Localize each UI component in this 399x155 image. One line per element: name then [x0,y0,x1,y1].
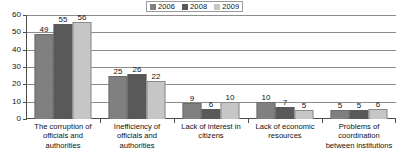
bar-2006[interactable]: 49 [35,34,54,119]
bar-value: 5 [357,102,361,110]
bar-2008[interactable]: 6 [202,109,221,119]
ytick-label-10: 10 [12,98,21,106]
bar-value: 56 [78,14,87,22]
category-label-line: officials and [101,131,173,140]
legend-item-2009: 2009 [214,3,239,11]
bar-2006[interactable]: 5 [331,110,350,119]
ytick-label-40: 40 [12,46,21,54]
legend-label-2006: 2006 [158,3,175,11]
category-label-line: citizens [175,131,247,140]
ytick-label-0: 0 [17,115,21,123]
bar-2008[interactable]: 55 [54,24,73,119]
legend-swatch-2009 [214,4,220,10]
bar-value: 7 [283,99,287,107]
bar-2009[interactable]: 10 [221,102,240,119]
category-label-inefficiency: Inefficiency of officials and authoritie… [100,122,174,155]
bar-2006[interactable]: 9 [183,103,202,119]
bar-value: 5 [338,102,342,110]
ytick-label-60: 60 [12,11,21,19]
category-label-line: The corruption of [27,122,99,131]
bar-2009[interactable]: 5 [295,110,314,119]
category-label-lack-of-interest: Lack of interest in citizens [174,122,248,155]
category-label-line: resources [249,131,321,140]
bar-value: 9 [190,95,194,103]
legend-label-2008: 2008 [190,3,207,11]
category-label-line: Lack of economic [249,122,321,131]
legend-label-2009: 2009 [222,3,239,11]
bar-groups: 49 55 56 25 26 [26,15,396,119]
bar-2009[interactable]: 22 [147,81,166,119]
category-label-line: coordination [323,131,395,140]
legend-swatch-2008 [182,4,188,10]
bar-2008[interactable]: 5 [350,110,369,119]
legend-item-2008: 2008 [182,3,207,11]
bar-group-inefficiency: 25 26 22 [100,15,174,119]
bar-value: 6 [376,101,380,109]
bar-value: 22 [152,73,161,81]
bar-2008[interactable]: 26 [128,74,147,119]
bar-2006[interactable]: 25 [109,76,128,119]
bar-2008[interactable]: 7 [276,107,295,119]
bar-value: 26 [133,66,142,74]
plot-area: 60 50 40 30 20 10 0 49 [26,15,396,119]
bar-group-lack-of-economic-resources: 10 7 5 [248,15,322,119]
category-label-line: Inefficiency of [101,122,173,131]
legend-item-2006: 2006 [150,3,175,11]
x-axis-category-labels: The corruption of officials and authorit… [26,122,396,155]
category-label-line: Lack of interest in [175,122,247,131]
bar-value: 49 [40,26,49,34]
ytick-label-30: 30 [12,63,21,71]
bar-group-corruption: 49 55 56 [26,15,100,119]
category-label-problems-of-coordination: Problems of coordination between institu… [322,122,396,155]
bar-2009[interactable]: 6 [369,109,388,119]
legend-swatch-2006 [150,4,156,10]
category-label-line: officials and [27,131,99,140]
bar-value: 55 [59,16,68,24]
bar-chart: 2006 2008 2009 60 50 40 30 20 10 0 [0,0,399,155]
chart-legend: 2006 2008 2009 [146,1,243,12]
category-label-corruption: The corruption of officials and authorit… [26,122,100,155]
category-label-lack-of-economic-resources: Lack of economic resources [248,122,322,155]
category-label-line: Problems of [323,122,395,131]
ytick-label-20: 20 [12,80,21,88]
bar-value: 10 [226,94,235,102]
category-label-line: between institutions [323,141,395,150]
category-label-line: authorities [101,141,173,150]
bar-value: 5 [302,102,306,110]
bar-2006[interactable]: 10 [257,102,276,119]
bar-value: 10 [262,94,271,102]
bar-2009[interactable]: 56 [73,22,92,119]
bar-group-lack-of-interest: 9 6 10 [174,15,248,119]
bar-value: 6 [209,101,213,109]
ytick-label-50: 50 [12,28,21,36]
bar-group-problems-of-coordination: 5 5 6 [322,15,396,119]
category-label-line: authorities [27,141,99,150]
bar-value: 25 [114,68,123,76]
